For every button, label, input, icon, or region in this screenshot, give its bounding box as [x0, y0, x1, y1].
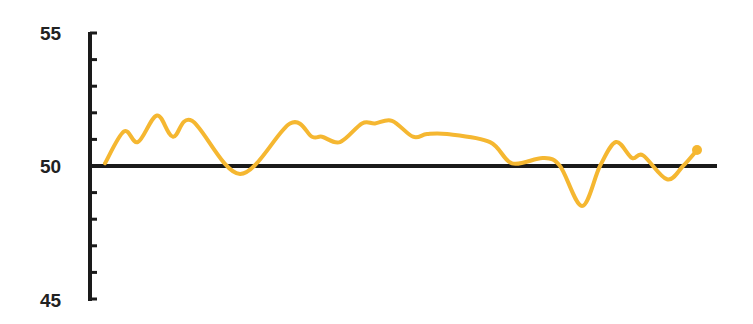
y-tick-label-55: 55	[40, 23, 62, 44]
y-tick-label-45: 45	[40, 290, 62, 311]
series-end-marker	[692, 145, 702, 155]
series-line	[105, 115, 697, 205]
line-chart: 55 50 45	[0, 0, 753, 324]
y-tick-label-50: 50	[40, 156, 61, 177]
